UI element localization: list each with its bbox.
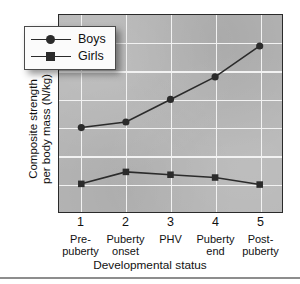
data-point-girls-3 <box>167 171 174 178</box>
legend-entry-boys: Boys <box>31 31 106 48</box>
data-point-boys-1 <box>78 124 85 131</box>
chart-figure: Composite strength per body mass (N/kg) … <box>0 0 300 284</box>
data-point-girls-2 <box>123 169 130 176</box>
chart-legend: Boys Girls <box>24 26 116 70</box>
data-point-boys-3 <box>167 96 174 103</box>
data-point-girls-1 <box>78 181 85 188</box>
footer-divider <box>0 277 300 279</box>
x-axis-label: Developmental status <box>0 258 300 272</box>
legend-label-boys: Boys <box>78 33 106 46</box>
legend-entry-girls: Girls <box>31 48 106 65</box>
data-point-girls-5 <box>256 181 263 188</box>
data-point-girls-4 <box>212 174 219 181</box>
data-point-boys-2 <box>122 118 129 125</box>
x-axis-tick-number-5: 5 <box>231 216 291 229</box>
legend-marker-square-icon <box>31 50 71 64</box>
legend-label-girls: Girls <box>78 50 104 63</box>
x-axis-category-label-5: Post-puberty <box>228 233 294 257</box>
data-point-boys-4 <box>212 73 219 80</box>
legend-marker-circle-icon <box>31 33 71 47</box>
data-point-boys-5 <box>256 42 263 49</box>
